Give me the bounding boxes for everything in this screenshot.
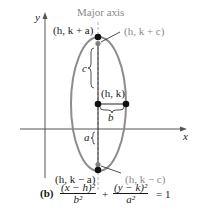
bottom-focus-point xyxy=(95,162,100,167)
c-brace xyxy=(88,48,94,88)
center-label: (h, k) xyxy=(101,87,125,100)
top-focus-leader xyxy=(101,32,120,42)
co-vertex-point xyxy=(123,101,130,108)
fraction-y-denominator: a² xyxy=(113,194,148,205)
fraction-x: (x − h)² b² xyxy=(60,181,96,205)
equation-caption: (b) (x − h)² b² + (y − k)² a² = 1 xyxy=(40,181,200,211)
top-vertex-label: (h, k + a) xyxy=(53,24,94,37)
plus-sign: + xyxy=(102,188,108,200)
major-axis-label: Major axis xyxy=(77,6,124,18)
equals-one: = 1 xyxy=(156,188,170,200)
a-brace xyxy=(91,132,95,144)
center-point xyxy=(95,101,102,108)
y-axis-arrow-icon xyxy=(43,12,48,19)
top-vertex-point xyxy=(95,34,102,41)
top-focus-label: (h, k + c) xyxy=(124,25,165,38)
b-label: b xyxy=(108,111,114,123)
y-axis-label: y xyxy=(34,11,40,23)
part-label: (b) xyxy=(40,187,53,199)
x-axis-label: x xyxy=(182,130,188,142)
bottom-vertex-point xyxy=(95,167,102,174)
top-focus-point xyxy=(95,41,100,46)
fraction-y: (y − k)² a² xyxy=(113,181,148,205)
c-label: c xyxy=(82,62,87,74)
a-label: a xyxy=(84,131,90,143)
fraction-x-denominator: b² xyxy=(60,194,96,205)
ellipse-diagram: Major axis y x (h, k + a) (h, k + c) (h,… xyxy=(0,0,200,211)
